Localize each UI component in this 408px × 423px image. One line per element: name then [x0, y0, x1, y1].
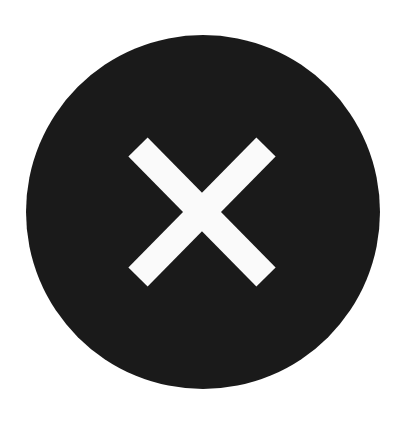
- close-circle-button[interactable]: [0, 0, 408, 423]
- close-circle-icon: [0, 0, 408, 423]
